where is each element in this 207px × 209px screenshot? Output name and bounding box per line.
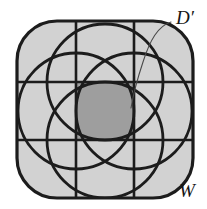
geometry-diagram: D′ W	[0, 0, 207, 209]
label-w: W	[179, 180, 197, 201]
label-d-prime: D′	[175, 7, 195, 28]
central-region-d-prime-fill	[76, 82, 134, 140]
figure-container: D′ W	[0, 0, 207, 209]
